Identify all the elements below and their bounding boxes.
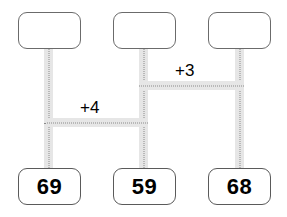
bottom-box-middle[interactable]: 59 xyxy=(113,168,176,205)
bottom-box-middle-value: 59 xyxy=(132,176,157,198)
top-box-left[interactable] xyxy=(18,12,81,49)
connector-vertical-right xyxy=(235,46,244,170)
top-box-middle[interactable] xyxy=(113,12,176,49)
connector-vertical-left xyxy=(44,46,53,170)
edge-label-plus-four: +4 xyxy=(80,99,99,116)
number-bond-diagram: 69 59 68 +4 +3 xyxy=(0,0,287,217)
bottom-box-left-value: 69 xyxy=(37,176,62,198)
edge-label-plus-three: +3 xyxy=(175,62,194,79)
connector-horizontal-left-middle xyxy=(44,118,148,127)
bottom-box-right-value: 68 xyxy=(227,176,252,198)
top-box-right[interactable] xyxy=(208,12,271,49)
connector-horizontal-middle-right xyxy=(139,81,244,90)
bottom-box-left[interactable]: 69 xyxy=(18,168,81,205)
bottom-box-right[interactable]: 68 xyxy=(208,168,271,205)
connector-vertical-middle xyxy=(139,46,148,170)
